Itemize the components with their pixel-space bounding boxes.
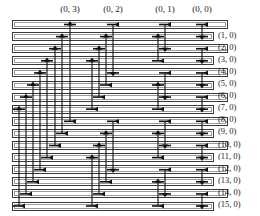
arrowhead <box>155 178 161 182</box>
arrowhead <box>89 154 95 158</box>
arrowhead <box>89 57 95 61</box>
barb <box>114 22 119 27</box>
barb <box>71 119 76 124</box>
row-label: (11, 0) <box>218 152 240 161</box>
barb <box>56 143 61 148</box>
barb <box>48 155 53 160</box>
barb <box>107 179 112 184</box>
arrowhead <box>155 33 161 37</box>
barb <box>203 167 208 172</box>
arrowhead <box>162 96 168 100</box>
arrowhead <box>30 82 36 86</box>
arrowhead <box>103 130 109 134</box>
arrowhead <box>199 132 205 136</box>
barb <box>166 71 171 76</box>
arrowhead <box>110 169 116 173</box>
row-label: (4, 0) <box>218 67 236 76</box>
row-label: (14, 0) <box>218 188 241 197</box>
arrowhead <box>96 45 102 49</box>
barb <box>20 204 25 209</box>
row-label: (12, 0) <box>218 164 241 173</box>
barb <box>93 204 98 209</box>
arrowhead <box>199 157 205 161</box>
barb <box>34 179 39 184</box>
arrowhead <box>162 193 168 197</box>
barb <box>159 58 164 63</box>
row-label: (8, 0) <box>218 115 236 124</box>
stage-0-links <box>13 21 76 208</box>
barb <box>159 204 164 209</box>
arrowhead <box>155 130 161 134</box>
barb <box>93 107 98 112</box>
barb <box>203 46 208 51</box>
arrowhead <box>162 48 168 52</box>
arrowhead <box>162 145 168 149</box>
barb <box>63 131 68 136</box>
row-label: (9, 0) <box>218 127 236 136</box>
barb <box>166 119 171 124</box>
arrowhead <box>199 108 205 112</box>
row-label: (2, 0) <box>218 43 236 52</box>
arrowhead <box>16 106 22 110</box>
barb <box>203 22 208 27</box>
stage-3-links <box>196 22 208 209</box>
barb <box>100 95 105 100</box>
row-label: (3, 0) <box>218 55 236 64</box>
arrowhead <box>103 33 109 37</box>
barb <box>203 119 208 124</box>
arrowhead <box>199 205 205 209</box>
arrowhead <box>96 142 102 146</box>
arrowhead <box>23 94 29 98</box>
arrowhead <box>37 70 43 74</box>
barb <box>203 71 208 76</box>
barb <box>203 192 208 197</box>
arrowhead <box>199 84 205 88</box>
barb <box>203 143 208 148</box>
row-label: (1, 0) <box>218 31 236 40</box>
barb <box>166 22 171 27</box>
barb <box>100 192 105 197</box>
barb <box>107 83 112 88</box>
arrowhead <box>59 33 65 37</box>
row-label: (10, 0) <box>218 140 241 149</box>
stage-1-links <box>86 22 119 208</box>
barb <box>114 119 119 124</box>
arrowhead <box>199 181 205 185</box>
barb <box>159 155 164 160</box>
row-label: (15, 0) <box>218 200 241 209</box>
row-label: (6, 0) <box>218 91 236 100</box>
stage-2-links <box>152 22 171 208</box>
row-label: (7, 0) <box>218 103 236 112</box>
arrowhead <box>44 57 50 61</box>
arrowhead <box>52 45 58 49</box>
barb <box>203 95 208 100</box>
barb <box>41 167 46 172</box>
diagram-root: (0, 3)(0, 2)(0, 1)(0, 0) (1, 0)(2, 0)(3,… <box>0 0 260 216</box>
arrowhead <box>110 72 116 76</box>
arrowhead <box>199 60 205 64</box>
arrowhead <box>67 21 73 25</box>
arrowhead <box>199 36 205 40</box>
arrowhead <box>155 82 161 86</box>
barb <box>27 192 32 197</box>
barb <box>159 107 164 112</box>
row-label: (5, 0) <box>218 79 236 88</box>
barb <box>166 167 171 172</box>
row-label: (13, 0) <box>218 176 241 185</box>
